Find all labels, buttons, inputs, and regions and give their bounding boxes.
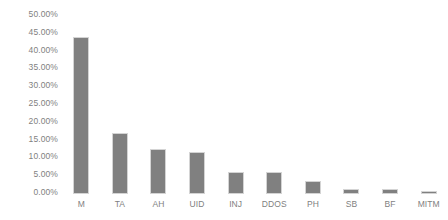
bar[interactable] [266, 172, 282, 194]
x-axis-tick-label: PH [307, 199, 319, 209]
plot-area: MTAAHUIDINJDDOSPHSBBFMITM [62, 0, 448, 220]
bar[interactable] [305, 181, 321, 194]
bar-chart: 0.00%5.00%10.00%15.00%20.00%25.00%30.00%… [0, 0, 448, 220]
bar[interactable] [150, 149, 166, 194]
bar[interactable] [189, 152, 205, 194]
bar-group: SB [332, 0, 371, 220]
x-axis-tick-label: MITM [418, 199, 440, 209]
x-axis-tick-label: BF [385, 199, 396, 209]
bar-group: BF [371, 0, 410, 220]
bar-group: M [62, 0, 101, 220]
bar-group: DDOS [255, 0, 294, 220]
y-axis-tick-label: 35.00% [0, 62, 58, 72]
y-axis-tick-label: 20.00% [0, 116, 58, 126]
x-axis-tick-label: UID [190, 199, 205, 209]
y-axis-tick-label: 50.00% [0, 9, 58, 19]
bar-group: MITM [409, 0, 448, 220]
y-axis-tick-label: 10.00% [0, 151, 58, 161]
y-axis-tick-label: 45.00% [0, 27, 58, 37]
x-axis-tick-label: DDOS [262, 199, 287, 209]
y-axis-tick-label: 40.00% [0, 45, 58, 55]
bar[interactable] [73, 37, 89, 194]
x-axis-tick-label: INJ [229, 199, 242, 209]
bar-group: INJ [216, 0, 255, 220]
bar[interactable] [112, 133, 128, 194]
x-axis-tick-label: AH [152, 199, 164, 209]
y-axis-tick-label: 15.00% [0, 134, 58, 144]
x-axis-tick-label: TA [115, 199, 125, 209]
x-axis-tick-label: M [78, 199, 85, 209]
bar-group: UID [178, 0, 217, 220]
bars-layer: MTAAHUIDINJDDOSPHSBBFMITM [62, 0, 448, 220]
bar[interactable] [343, 189, 359, 194]
y-axis-tick-label: 30.00% [0, 80, 58, 90]
y-axis: 0.00%5.00%10.00%15.00%20.00%25.00%30.00%… [0, 0, 62, 220]
y-axis-tick-label: 0.00% [0, 187, 58, 197]
bar[interactable] [382, 189, 398, 194]
bar-group: PH [294, 0, 333, 220]
bar[interactable] [421, 191, 437, 194]
bar-group: TA [101, 0, 140, 220]
y-axis-tick-label: 25.00% [0, 98, 58, 108]
y-axis-tick-label: 5.00% [0, 169, 58, 179]
bar[interactable] [228, 172, 244, 194]
bar-group: AH [139, 0, 178, 220]
x-axis-tick-label: SB [346, 199, 358, 209]
